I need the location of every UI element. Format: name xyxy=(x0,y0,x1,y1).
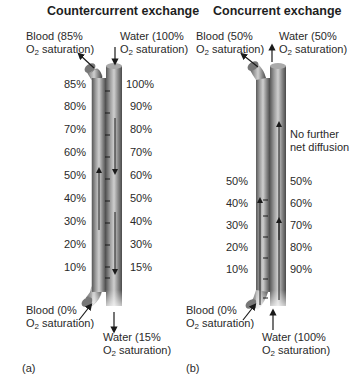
blood-pct-b: 20% xyxy=(226,241,248,253)
blood-pct-b: 10% xyxy=(226,263,248,275)
water-pct-b: 60% xyxy=(290,197,312,209)
water-pct-b: 80% xyxy=(290,241,312,253)
blood-pct-a: 30% xyxy=(64,215,86,227)
concurrent-title: Concurrent exchange xyxy=(213,4,342,18)
water-pct-b: 50% xyxy=(290,175,312,187)
blood-pct-b: 40% xyxy=(226,197,248,209)
water-pct-a: 30% xyxy=(130,238,152,250)
blood-pct-a: 85% xyxy=(64,78,86,90)
water-pct-a: 50% xyxy=(130,192,152,204)
blood-pct-a: 80% xyxy=(64,100,86,112)
countercurrent-tubes xyxy=(80,61,124,310)
water-pct-a: 70% xyxy=(130,146,152,158)
blood-pct-b: 30% xyxy=(226,219,248,231)
concurrent-tubes xyxy=(244,59,288,310)
blood-in-label-a: Blood (0% O2 saturation) xyxy=(26,304,94,330)
blood-pct-a: 40% xyxy=(64,192,86,204)
blood-pct-a: 10% xyxy=(64,261,86,273)
water-out-label-a: Water (15% O2 saturation) xyxy=(103,331,171,357)
blood-pct-a: 50% xyxy=(64,169,86,181)
blood-out-label-a: Blood (85% O2 saturation) xyxy=(26,30,94,56)
water-pct-a: 15% xyxy=(130,261,152,273)
blood-in-label-b: Blood (0% O2 saturation) xyxy=(186,304,254,330)
water-pct-a: 60% xyxy=(130,169,152,181)
blood-pct-a: 60% xyxy=(64,146,86,158)
water-pct-a: 100% xyxy=(126,78,154,90)
no-further-diffusion-note: No further net diffusion xyxy=(290,128,349,154)
water-pct-b: 70% xyxy=(290,219,312,231)
blood-pct-a: 70% xyxy=(64,123,86,135)
water-pct-a: 80% xyxy=(130,123,152,135)
water-pct-a: 90% xyxy=(130,100,152,112)
panel-label-b: (b) xyxy=(186,362,199,374)
water-in-label-b: Water (100% O2 saturation) xyxy=(262,331,330,357)
water-in-label-a: Water (100% O2 saturation) xyxy=(120,30,188,56)
blood-out-label-b: Blood (50% O2 saturation) xyxy=(196,30,264,56)
blood-pct-b: 50% xyxy=(226,175,248,187)
water-pct-b: 90% xyxy=(290,263,312,275)
water-pct-a: 40% xyxy=(130,215,152,227)
water-out-label-b: Water (50% O2 saturation) xyxy=(279,30,347,56)
blood-pct-a: 20% xyxy=(64,238,86,250)
countercurrent-title: Countercurrent exchange xyxy=(47,4,199,18)
panel-label-a: (a) xyxy=(22,362,35,374)
